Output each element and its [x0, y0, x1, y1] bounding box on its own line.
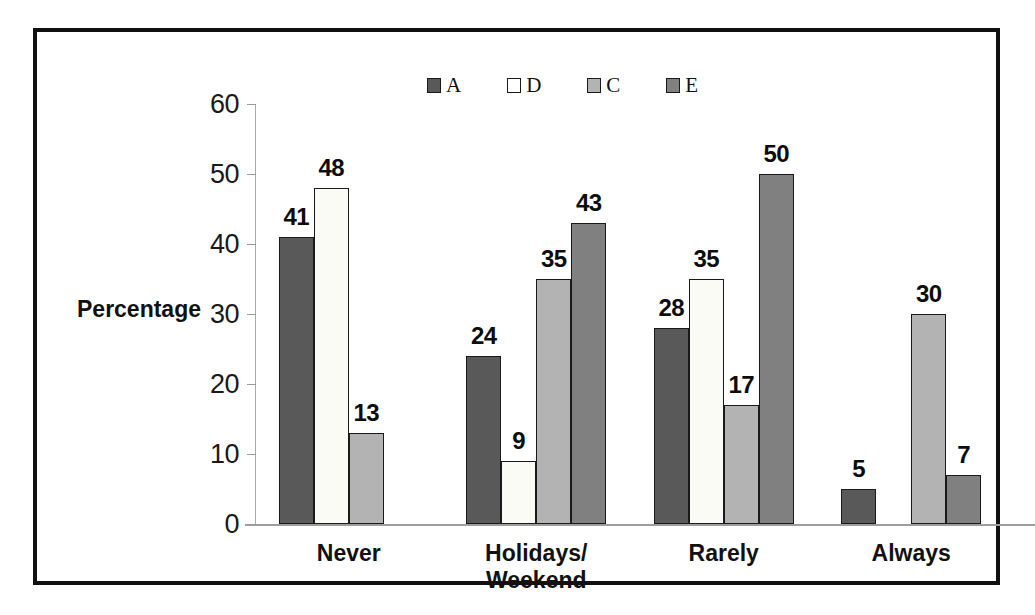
category-label-line: Weekend	[443, 567, 631, 594]
bar[interactable]	[654, 328, 689, 524]
plot-area: 4148132493543283517505307	[255, 104, 1005, 524]
x-axis-category-label: Holidays/Weekend	[443, 540, 631, 594]
bar-slot-d: 48	[314, 104, 349, 524]
legend-item-c[interactable]: C	[587, 75, 620, 96]
bar-slot-a: 5	[841, 104, 876, 524]
bar-value-label: 28	[658, 294, 684, 322]
bar[interactable]	[724, 405, 759, 524]
legend-label: D	[526, 75, 541, 96]
y-axis-tick-label: 30	[177, 299, 239, 330]
chart-frame: ADCE Percentage 0102030405060 4148132493…	[33, 28, 1000, 585]
bar-group: 28351750	[630, 104, 818, 524]
legend-item-d[interactable]: D	[507, 75, 541, 96]
bar-slot-c: 35	[536, 104, 571, 524]
bar[interactable]	[571, 223, 606, 524]
legend-item-a[interactable]: A	[427, 75, 461, 96]
y-axis-tick-label: 60	[177, 89, 239, 120]
y-axis-tick-label: 20	[177, 369, 239, 400]
bar-slot-e: 50	[759, 104, 794, 524]
legend-label: A	[446, 75, 461, 96]
legend-swatch-icon	[666, 78, 680, 93]
bar-slot-d: 35	[689, 104, 724, 524]
category-label-line: Always	[818, 540, 1006, 567]
bar-value-label: 5	[852, 455, 865, 483]
bar[interactable]	[911, 314, 946, 524]
bar-value-label: 7	[957, 441, 970, 469]
legend-swatch-icon	[427, 78, 441, 93]
bar-value-label: 17	[728, 371, 754, 399]
bar-value-label: 30	[916, 280, 942, 308]
bar[interactable]	[689, 279, 724, 524]
bar-slot-c: 17	[724, 104, 759, 524]
bar-value-label: 24	[471, 322, 497, 350]
bar-value-label: 50	[763, 140, 789, 168]
y-axis-tick-label: 10	[177, 439, 239, 470]
y-axis-tick-label: 0	[177, 509, 239, 540]
legend-label: E	[685, 75, 698, 96]
bar-slot-e: 43	[571, 104, 606, 524]
legend-item-e[interactable]: E	[666, 75, 698, 96]
bar[interactable]	[946, 475, 981, 524]
bar-value-label: 13	[353, 399, 379, 427]
category-label-line: Never	[255, 540, 443, 567]
category-label-line: Rarely	[630, 540, 818, 567]
category-label-line: Holidays/	[443, 540, 631, 567]
bar-group: 5307	[818, 104, 1006, 524]
bar-slot-e	[384, 104, 419, 524]
bar[interactable]	[314, 188, 349, 524]
bar-value-label: 35	[693, 245, 719, 273]
bar-group: 414813	[255, 104, 443, 524]
x-axis-category-label: Never	[255, 540, 443, 567]
bar[interactable]	[501, 461, 536, 524]
legend-swatch-icon	[507, 78, 521, 93]
legend-swatch-icon	[587, 78, 601, 93]
x-axis-line	[245, 524, 1035, 526]
bar[interactable]	[759, 174, 794, 524]
bar-slot-a: 41	[279, 104, 314, 524]
bar[interactable]	[279, 237, 314, 524]
bar-slot-e: 7	[946, 104, 981, 524]
chart-legend: ADCE	[427, 72, 698, 98]
legend-label: C	[606, 75, 620, 96]
y-axis-tick	[247, 524, 256, 525]
bar-value-label: 43	[576, 189, 602, 217]
bar-group: 2493543	[443, 104, 631, 524]
y-axis-tick-label: 50	[177, 159, 239, 190]
bar-value-label: 9	[512, 427, 525, 455]
x-axis-category-label: Always	[818, 540, 1006, 567]
bar[interactable]	[466, 356, 501, 524]
bar-slot-c: 13	[349, 104, 384, 524]
bar-slot-c: 30	[911, 104, 946, 524]
y-axis-tick-label: 40	[177, 229, 239, 260]
bar-slot-a: 28	[654, 104, 689, 524]
bar[interactable]	[349, 433, 384, 524]
bar-value-label: 48	[318, 154, 344, 182]
bar-slot-a: 24	[466, 104, 501, 524]
bar-slot-d: 9	[501, 104, 536, 524]
bar[interactable]	[536, 279, 571, 524]
bar-slot-d	[876, 104, 911, 524]
bar-value-label: 35	[541, 245, 567, 273]
bar-value-label: 41	[283, 203, 309, 231]
x-axis-category-label: Rarely	[630, 540, 818, 567]
bar[interactable]	[841, 489, 876, 524]
